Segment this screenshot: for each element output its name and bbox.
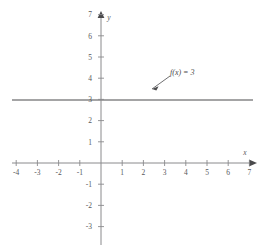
x-tick-label: 3 (163, 168, 167, 177)
y-tick-label: 7 (88, 10, 92, 19)
x-tick-label: 5 (205, 168, 209, 177)
x-axis-tick-labels: -4 -3 -2 -1 1 2 3 4 5 6 7 (13, 168, 251, 177)
x-tick-label: -4 (13, 168, 19, 177)
x-tick-label: -1 (77, 168, 83, 177)
x-axis-label: x (242, 148, 247, 157)
y-axis-tick-labels: 7 6 5 4 3 2 1 -1 -2 -3 (86, 10, 93, 231)
y-tick-label: 1 (88, 138, 92, 147)
y-tick-label: 4 (88, 74, 92, 83)
y-axis-label: y (106, 13, 111, 22)
y-tick-label: 6 (88, 32, 92, 41)
x-tick-label: 7 (248, 168, 252, 177)
y-tick-label: -1 (86, 180, 92, 189)
coordinate-plane-figure: x y -4 -3 -2 -1 1 2 3 4 5 6 (0, 0, 265, 251)
graph-canvas: x y -4 -3 -2 -1 1 2 3 4 5 6 (0, 0, 265, 251)
x-tick-label: -2 (55, 168, 61, 177)
y-tick-label: -3 (86, 222, 92, 231)
x-tick-label: 4 (184, 168, 188, 177)
annotation-pointer-arrow (152, 76, 170, 91)
y-tick-label: 2 (88, 116, 92, 125)
function-annotation-label: f(x) = 3 (170, 68, 195, 77)
y-tick-label: 3 (88, 95, 92, 104)
y-tick-label: -2 (86, 201, 92, 210)
x-tick-label: -3 (34, 168, 40, 177)
y-tick-label: 5 (88, 53, 92, 62)
x-tick-label: 6 (226, 168, 230, 177)
x-axis-arrowhead (249, 160, 257, 167)
x-tick-label: 1 (120, 168, 124, 177)
x-tick-label: 2 (142, 168, 146, 177)
